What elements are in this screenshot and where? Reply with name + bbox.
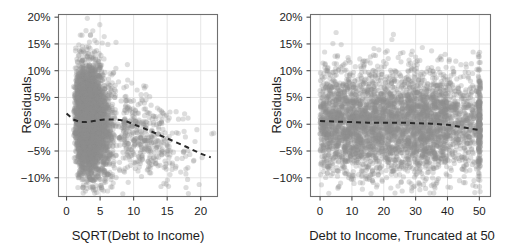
- y-tick-label: 0%: [34, 118, 51, 130]
- x-tick-label: 5: [97, 205, 103, 217]
- right-x-tick-labels: 01020304050: [317, 205, 486, 217]
- x-tick-label: 10: [127, 205, 140, 217]
- y-tick-label: −5%: [27, 145, 50, 157]
- right-x-axis-label: Debt to Income, Truncated at 50: [309, 228, 495, 243]
- y-tick-label: 20%: [279, 11, 302, 23]
- figure-root: 20%15%10%5%0%−5%−10% 05101520 Residuals …: [0, 0, 512, 252]
- x-tick-label: 0: [63, 205, 69, 217]
- y-tick-label: 0%: [286, 118, 303, 130]
- panel-left-sqrt-residuals: 20%15%10%5%0%−5%−10% 05101520 Residuals …: [0, 0, 256, 252]
- x-tick-label: 10: [346, 205, 359, 217]
- right-y-axis-label: Residuals: [269, 76, 284, 134]
- x-tick-label: 30: [409, 205, 422, 217]
- x-tick-label: 50: [473, 205, 486, 217]
- y-tick-label: 15%: [27, 38, 50, 50]
- panel-right-truncated-residuals: 20%15%10%5%0%−5%−10% 01020304050 Residua…: [256, 0, 512, 252]
- left-x-tick-labels: 05101520: [63, 205, 207, 217]
- y-tick-label: −10%: [273, 172, 303, 184]
- y-tick-label: −5%: [279, 145, 302, 157]
- y-tick-label: 20%: [27, 11, 50, 23]
- y-tick-label: 5%: [34, 91, 51, 103]
- y-tick-label: 10%: [27, 65, 50, 77]
- left-y-axis-label: Residuals: [19, 76, 34, 134]
- right-points-group: [318, 30, 484, 196]
- right-residual-plot: 20%15%10%5%0%−5%−10% 01020304050 Residua…: [256, 0, 512, 252]
- left-points-group: [71, 16, 216, 197]
- x-tick-label: 40: [441, 205, 454, 217]
- y-tick-label: 5%: [286, 91, 303, 103]
- y-tick-label: 15%: [279, 38, 302, 50]
- y-tick-label: −10%: [21, 172, 51, 184]
- x-tick-label: 0: [317, 205, 323, 217]
- x-tick-label: 20: [377, 205, 390, 217]
- left-residual-plot: 20%15%10%5%0%−5%−10% 05101520 Residuals …: [0, 0, 256, 252]
- x-tick-label: 20: [194, 205, 207, 217]
- y-tick-label: 10%: [279, 65, 302, 77]
- left-x-axis-label: SQRT(Debt to Income): [72, 228, 205, 243]
- x-tick-label: 15: [161, 205, 174, 217]
